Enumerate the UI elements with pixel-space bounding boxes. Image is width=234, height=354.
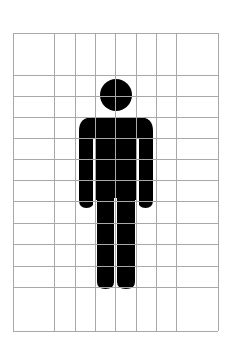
pictogram-canvas xyxy=(0,0,234,354)
left-leg xyxy=(97,195,114,289)
right-leg xyxy=(117,195,135,289)
